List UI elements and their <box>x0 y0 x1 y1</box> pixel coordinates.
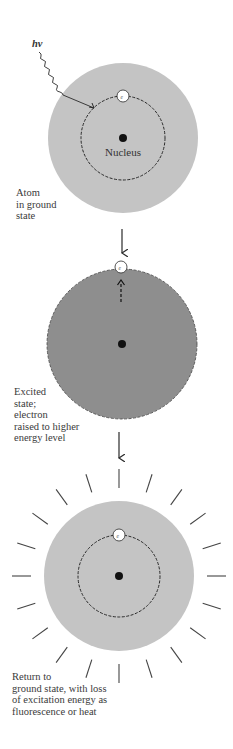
emission-ray <box>17 603 35 609</box>
electron <box>113 529 125 541</box>
electron <box>115 261 127 273</box>
emission-ray <box>17 543 35 549</box>
emission-ray <box>86 474 92 492</box>
emission-ray <box>171 647 182 662</box>
emission-ray <box>56 489 67 504</box>
emission-ray <box>146 660 152 678</box>
emission-ray <box>32 513 47 524</box>
nucleus-dot <box>119 134 127 142</box>
nucleus-dot <box>115 572 123 580</box>
emission-ray <box>146 474 152 492</box>
emission-ray <box>32 628 47 639</box>
ground-state-caption: Atom in ground state <box>16 187 57 222</box>
electron <box>117 90 129 102</box>
emission-ray <box>190 628 205 639</box>
emission-ray <box>203 603 221 609</box>
emission-ray <box>190 513 205 524</box>
atom-excitation-diagram: e Nucleus hν e e <box>0 0 233 749</box>
excited-state-caption: Excited state; electron raised to higher… <box>14 386 79 444</box>
return-state-caption: Return to ground state, with loss of exc… <box>12 671 107 717</box>
emission-ray <box>56 647 67 662</box>
nucleus-dot <box>118 340 126 348</box>
return-state-atom: e <box>12 469 226 683</box>
ground-state-atom: e Nucleus <box>48 63 198 213</box>
nucleus-label: Nucleus <box>105 146 141 158</box>
photon-label: hν <box>32 38 43 49</box>
emission-ray <box>171 489 182 504</box>
emission-ray <box>203 543 221 549</box>
